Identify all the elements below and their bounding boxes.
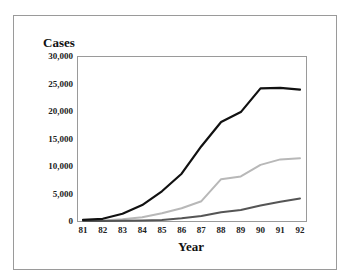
plot-area xyxy=(78,57,307,222)
y-tick-label: 0 xyxy=(69,216,74,226)
x-tick-label: 85 xyxy=(157,225,167,235)
line-chart: 05,00010,00015,00020,00025,00030,000 818… xyxy=(0,0,347,278)
y-tick-label: 30,000 xyxy=(48,51,73,61)
series-line-1 xyxy=(83,88,300,220)
x-tick-label: 92 xyxy=(296,225,306,235)
x-tick-label: 82 xyxy=(98,225,108,235)
x-tick-label: 87 xyxy=(197,225,207,235)
y-tick-label: 20,000 xyxy=(48,106,73,116)
x-tick-label: 83 xyxy=(118,225,128,235)
series-lines xyxy=(83,88,300,221)
x-tick-label: 90 xyxy=(256,225,266,235)
x-tick-label: 89 xyxy=(236,225,246,235)
x-tick-label: 88 xyxy=(217,225,227,235)
x-tick-label: 84 xyxy=(138,225,148,235)
y-tick-label: 15,000 xyxy=(48,134,73,144)
series-line-2 xyxy=(83,158,300,221)
x-axis-title: Year xyxy=(178,239,204,254)
x-tick-label: 91 xyxy=(276,225,286,235)
x-axis-ticks: 818283848586878889909192 xyxy=(79,225,306,235)
series-line-3 xyxy=(83,198,300,221)
y-axis-title: Cases xyxy=(43,35,75,50)
y-tick-label: 25,000 xyxy=(48,79,73,89)
x-tick-label: 81 xyxy=(79,225,89,235)
y-tick-label: 10,000 xyxy=(48,161,73,171)
x-tick-label: 86 xyxy=(177,225,187,235)
y-tick-label: 5,000 xyxy=(53,189,74,199)
y-axis-ticks: 05,00010,00015,00020,00025,00030,000 xyxy=(48,51,73,226)
